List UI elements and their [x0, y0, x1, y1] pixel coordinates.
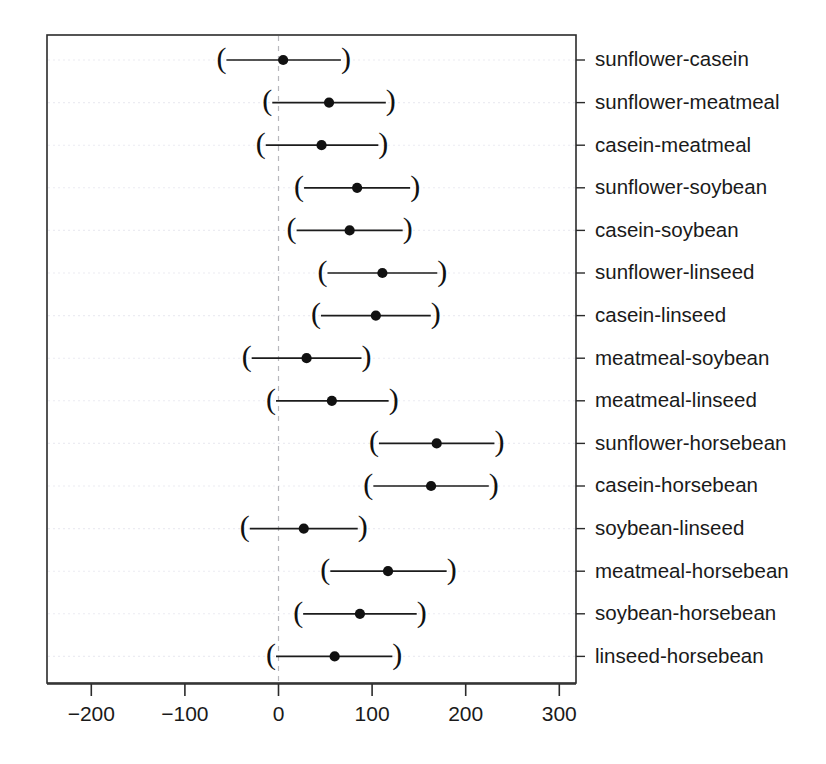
category-label: sunflower-horsebean — [595, 431, 786, 454]
interval-lower-bound-marker: ( — [287, 211, 297, 245]
category-label: soybean-horsebean — [595, 601, 776, 624]
category-label: sunflower-casein — [595, 47, 749, 70]
x-axis-tick-label: 300 — [542, 702, 577, 725]
interval-upper-bound-marker: ) — [494, 424, 504, 458]
interval-estimate-point — [355, 609, 365, 619]
interval-estimate-point — [377, 268, 387, 278]
confidence-interval: () — [216, 41, 350, 75]
category-label: casein-soybean — [595, 218, 739, 241]
intervals-group: ()()()()()()()()()()()()()()() — [216, 41, 504, 671]
category-label: sunflower-linseed — [595, 260, 755, 283]
confidence-interval: () — [293, 595, 427, 629]
interval-estimate-point — [324, 98, 334, 108]
interval-estimate-point — [299, 524, 309, 534]
interval-upper-bound-marker: ) — [437, 254, 447, 288]
interval-lower-bound-marker: ( — [216, 41, 226, 75]
plot-canvas: ()()()()()()()()()()()()()()() sunflower… — [0, 0, 826, 764]
interval-upper-bound-marker: ) — [389, 382, 399, 416]
confidence-interval-plot: ()()()()()()()()()()()()()()() sunflower… — [0, 0, 826, 764]
confidence-interval: () — [266, 382, 399, 416]
confidence-interval: () — [363, 467, 498, 501]
interval-estimate-point — [301, 353, 311, 363]
interval-upper-bound-marker: ) — [403, 211, 413, 245]
interval-upper-bound-marker: ) — [378, 126, 388, 160]
interval-upper-bound-marker: ) — [386, 83, 396, 117]
x-axis-tick-label: 0 — [273, 702, 285, 725]
category-label: meatmeal-soybean — [595, 346, 769, 369]
category-label: soybean-linseed — [595, 516, 744, 539]
interval-lower-bound-marker: ( — [317, 254, 327, 288]
category-label: meatmeal-horsebean — [595, 559, 789, 582]
interval-lower-bound-marker: ( — [369, 424, 379, 458]
interval-lower-bound-marker: ( — [294, 169, 304, 203]
category-label: sunflower-meatmeal — [595, 90, 780, 113]
confidence-interval: () — [320, 552, 456, 586]
category-label: meatmeal-linseed — [595, 388, 757, 411]
confidence-interval: () — [266, 637, 402, 671]
x-axis-tick-label: −200 — [68, 702, 115, 725]
row-labels-group: sunflower-caseinsunflower-meatmealcasein… — [595, 47, 789, 666]
interval-estimate-point — [432, 438, 442, 448]
category-label: casein-horsebean — [595, 473, 758, 496]
interval-estimate-point — [330, 651, 340, 661]
confidence-interval: () — [311, 296, 441, 330]
confidence-interval: () — [242, 339, 372, 373]
confidence-interval: () — [317, 254, 447, 288]
interval-lower-bound-marker: ( — [266, 637, 276, 671]
confidence-interval: () — [240, 509, 368, 543]
interval-lower-bound-marker: ( — [293, 595, 303, 629]
interval-upper-bound-marker: ) — [431, 296, 441, 330]
interval-estimate-point — [316, 140, 326, 150]
x-axis-tick-label: −100 — [161, 702, 208, 725]
interval-upper-bound-marker: ) — [392, 637, 402, 671]
interval-lower-bound-marker: ( — [262, 83, 272, 117]
interval-lower-bound-marker: ( — [363, 467, 373, 501]
interval-estimate-point — [345, 225, 355, 235]
x-axis-tick-label: 100 — [355, 702, 390, 725]
interval-estimate-point — [352, 183, 362, 193]
interval-estimate-point — [371, 311, 381, 321]
interval-lower-bound-marker: ( — [240, 509, 250, 543]
interval-upper-bound-marker: ) — [358, 509, 368, 543]
confidence-interval: () — [262, 83, 396, 117]
category-label: casein-meatmeal — [595, 133, 751, 156]
confidence-interval: () — [294, 169, 420, 203]
interval-lower-bound-marker: ( — [320, 552, 330, 586]
interval-lower-bound-marker: ( — [242, 339, 252, 373]
interval-estimate-point — [327, 396, 337, 406]
category-label: casein-linseed — [595, 303, 726, 326]
interval-upper-bound-marker: ) — [447, 552, 457, 586]
confidence-interval: () — [369, 424, 504, 458]
interval-estimate-point — [278, 55, 288, 65]
confidence-interval: () — [287, 211, 413, 245]
interval-upper-bound-marker: ) — [341, 41, 351, 75]
category-label: sunflower-soybean — [595, 175, 767, 198]
x-axis-tick-label: 200 — [448, 702, 483, 725]
interval-estimate-point — [383, 566, 393, 576]
interval-lower-bound-marker: ( — [311, 296, 321, 330]
interval-lower-bound-marker: ( — [256, 126, 266, 160]
interval-estimate-point — [426, 481, 436, 491]
interval-lower-bound-marker: ( — [266, 382, 276, 416]
x-axis-group: −200−1000100200300 — [47, 684, 577, 725]
row-ticks-group — [576, 60, 585, 656]
confidence-interval: () — [256, 126, 389, 160]
interval-upper-bound-marker: ) — [410, 169, 420, 203]
interval-upper-bound-marker: ) — [489, 467, 499, 501]
interval-upper-bound-marker: ) — [361, 339, 371, 373]
category-label: linseed-horsebean — [595, 644, 764, 667]
interval-upper-bound-marker: ) — [417, 595, 427, 629]
